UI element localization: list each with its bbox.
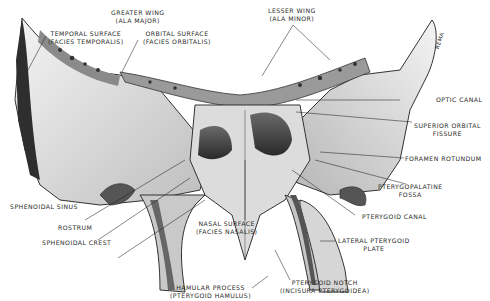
label-rostrum: ROSTRUM [58, 224, 92, 232]
label-line: SPHENOIDAL SINUS [10, 203, 78, 211]
label-foramen-rotundum: FORAMEN ROTUNDUM [405, 155, 482, 163]
label-sphenoidal-sinus: SPHENOIDAL SINUS [10, 203, 78, 211]
label-nasal-surface: NASAL SURFACE (FACIES NASALIS) [196, 220, 257, 236]
label-line: FOSSA [378, 191, 443, 199]
label-line: (FACIES TEMPORALIS) [48, 38, 124, 46]
label-line: FISSURE [414, 130, 481, 138]
label-line: NASAL SURFACE [196, 220, 257, 228]
label-line: (ALA MAJOR) [111, 17, 164, 25]
label-line: ORBITAL SURFACE [143, 30, 211, 38]
label-lesser-wing: LESSER WING (ALA MINOR) [268, 7, 316, 23]
label-superior-orbital-fissure: SUPERIOR ORBITAL FISSURE [414, 122, 481, 138]
label-pterygopalatine-fossa: PTERYGOPALATINE FOSSA [378, 183, 443, 199]
label-line: ROSTRUM [58, 224, 92, 232]
label-line: LATERAL PTERYGOID [338, 237, 410, 245]
label-line: PTERYGOID NOTCH [280, 279, 370, 287]
label-line: (FACIES ORBITALIS) [143, 38, 211, 46]
label-lateral-pterygoid-plate: LATERAL PTERYGOID PLATE [338, 237, 410, 253]
label-pterygoid-notch: PTERYGOID NOTCH (INCISURA PTERYGOIDEA) [280, 279, 370, 295]
label-line: TEMPORAL SURFACE [48, 30, 124, 38]
label-line: PTERYGOID CANAL [362, 213, 427, 221]
label-greater-wing: GREATER WING (ALA MAJOR) [111, 9, 164, 25]
label-line: (PTERYGOID HAMULUS) [170, 292, 251, 300]
label-hamular-process: HAMULAR PROCESS (PTERYGOID HAMULUS) [170, 284, 251, 300]
label-line: (FACIES NASALIS) [196, 228, 257, 236]
label-optic-canal: OPTIC CANAL [436, 96, 482, 104]
label-line: (INCISURA PTERYGOIDEA) [280, 287, 370, 295]
label-line: SUPERIOR ORBITAL [414, 122, 481, 130]
label-line: SPHENOIDAL CREST [42, 239, 111, 247]
label-pterygoid-canal: PTERYGOID CANAL [362, 213, 427, 221]
label-line: OPTIC CANAL [436, 96, 482, 104]
label-temporal-surface: TEMPORAL SURFACE (FACIES TEMPORALIS) [48, 30, 124, 46]
label-line: (ALA MINOR) [268, 15, 316, 23]
label-line: LESSER WING [268, 7, 316, 15]
label-line: PLATE [338, 245, 410, 253]
sphenoid-diagram: GREATER WING (ALA MAJOR) TEMPORAL SURFAC… [0, 0, 490, 301]
label-sphenoidal-crest: SPHENOIDAL CREST [42, 239, 111, 247]
label-line: HAMULAR PROCESS [170, 284, 251, 292]
label-orbital-surface: ORBITAL SURFACE (FACIES ORBITALIS) [143, 30, 211, 46]
label-line: GREATER WING [111, 9, 164, 17]
label-line: FORAMEN ROTUNDUM [405, 155, 482, 163]
label-line: PTERYGOPALATINE [378, 183, 443, 191]
